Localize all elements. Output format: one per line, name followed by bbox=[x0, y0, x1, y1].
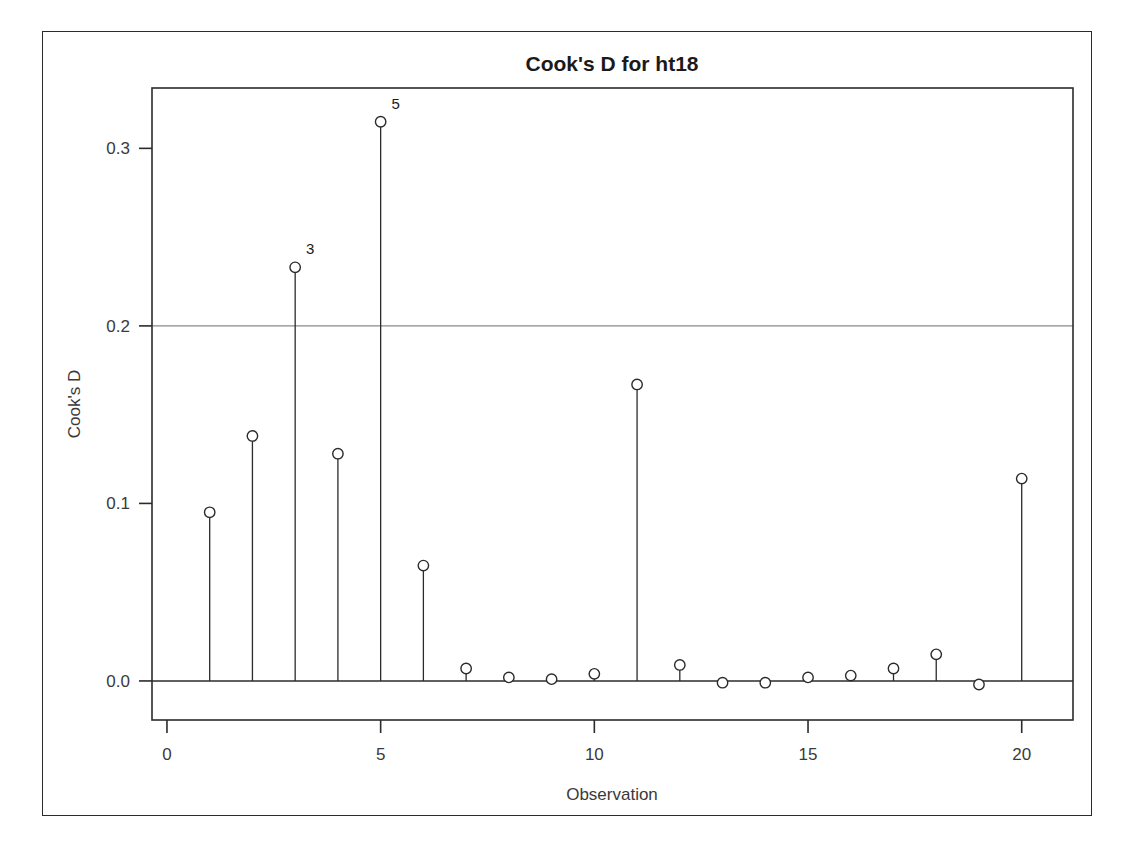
data-point bbox=[504, 672, 514, 682]
data-marker-circle-icon bbox=[418, 560, 428, 570]
data-point bbox=[803, 672, 813, 682]
x-tick-label: 5 bbox=[376, 745, 385, 764]
data-marker-circle-icon bbox=[589, 669, 599, 679]
cooks-d-chart: 35 05101520 0.00.10.20.3 Cook's D for ht… bbox=[0, 0, 1121, 864]
data-marker-circle-icon bbox=[290, 262, 300, 272]
y-axis-title: Cook's D bbox=[65, 370, 84, 438]
data-marker-circle-icon bbox=[846, 670, 856, 680]
data-marker-circle-icon bbox=[546, 674, 556, 684]
x-tick-label: 15 bbox=[799, 745, 818, 764]
y-tick-label: 0.2 bbox=[106, 317, 130, 336]
data-point bbox=[546, 674, 556, 684]
data-marker-circle-icon bbox=[760, 678, 770, 688]
point-annotation-label: 5 bbox=[391, 95, 399, 112]
data-point bbox=[846, 670, 856, 681]
data-point bbox=[974, 679, 984, 689]
data-marker-circle-icon bbox=[931, 649, 941, 659]
data-marker-circle-icon bbox=[888, 663, 898, 673]
x-tick-label: 20 bbox=[1012, 745, 1031, 764]
data-marker-circle-icon bbox=[247, 431, 257, 441]
data-marker-circle-icon bbox=[632, 379, 642, 389]
data-marker-circle-icon bbox=[803, 672, 813, 682]
data-point bbox=[717, 678, 727, 688]
data-marker-circle-icon bbox=[461, 663, 471, 673]
data-marker-circle-icon bbox=[375, 117, 385, 127]
x-tick-label: 10 bbox=[585, 745, 604, 764]
point-annotation-label: 3 bbox=[306, 240, 314, 257]
x-axis-tick-labels: 05101520 bbox=[162, 745, 1031, 764]
figure-root: 35 05101520 0.00.10.20.3 Cook's D for ht… bbox=[0, 0, 1121, 864]
data-marker-circle-icon bbox=[204, 507, 214, 517]
data-point bbox=[760, 678, 770, 688]
y-tick-label: 0.0 bbox=[106, 672, 130, 691]
data-marker-circle-icon bbox=[1017, 473, 1027, 483]
data-marker-circle-icon bbox=[333, 449, 343, 459]
y-axis-tick-labels: 0.00.10.20.3 bbox=[106, 139, 130, 691]
x-tick-label: 0 bbox=[162, 745, 171, 764]
y-tick-label: 0.1 bbox=[106, 494, 130, 513]
data-marker-circle-icon bbox=[675, 660, 685, 670]
x-axis-title: Observation bbox=[566, 785, 658, 804]
chart-title: Cook's D for ht18 bbox=[525, 52, 698, 75]
plot-background bbox=[152, 88, 1073, 720]
data-marker-circle-icon bbox=[504, 672, 514, 682]
data-marker-circle-icon bbox=[974, 679, 984, 689]
data-marker-circle-icon bbox=[717, 678, 727, 688]
y-tick-label: 0.3 bbox=[106, 139, 130, 158]
